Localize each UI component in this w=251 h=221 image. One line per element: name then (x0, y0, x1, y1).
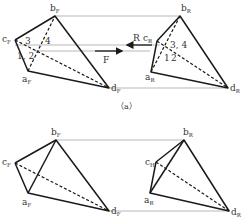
vertex-label-dF: dF (111, 206, 121, 217)
edge-c-b-d-a-c (15, 140, 109, 211)
vertex-label-cR: cR (143, 33, 153, 44)
tetrahedron-projection-diagram: bF cF aF dF 3 4 1, 2 F R bR cR aR dR 3, … (0, 0, 251, 221)
vertex-label-dR: dR (230, 83, 241, 94)
vertex-label-bR: bR (183, 127, 194, 138)
vertex-label-bF: bF (51, 127, 61, 138)
vertex-label-cF: cF (2, 157, 11, 168)
vertex-label-bR: bR (181, 3, 192, 14)
edge-c-b-d-a-c (151, 16, 228, 88)
side-view-b: bR cH aR dR (144, 127, 242, 218)
vertex-label-aR: aR (144, 195, 154, 206)
figure-a: bF cF aF dF 3 4 1, 2 F R bR cR aR dR 3, … (2, 3, 241, 111)
arrow-label-R: R (133, 33, 140, 43)
vertex-label-cH: cH (145, 157, 155, 168)
point-label-3: 3 (25, 36, 31, 46)
front-view-a: bF cF aF dF 3 4 1, 2 (2, 3, 121, 94)
arrow-label-F: F (103, 55, 109, 65)
point-label-34: 3, 4 (170, 40, 187, 50)
side-view-a: bR cR aR dR 3, 4 1 2 (143, 3, 241, 94)
point-label-12: 1, 2 (17, 51, 34, 61)
vertex-label-dR: dR (231, 207, 242, 218)
point-label-1: 1 (164, 53, 170, 63)
vertex-label-aR: aR (145, 72, 155, 83)
front-view-b: bF cF aF dF (2, 127, 121, 217)
vertex-label-bF: bF (50, 3, 60, 14)
vertex-label-aF: aF (22, 197, 31, 208)
figure-caption-a: （a） (116, 102, 137, 111)
vertex-label-aF: aF (22, 74, 31, 85)
hidden-edge-c-d (156, 162, 229, 211)
figure-b: bF cF aF dF bR cH aR dR (2, 127, 242, 218)
point-label-2: 2 (171, 53, 177, 63)
vertex-label-dF: dF (111, 83, 121, 94)
vertex-label-cF: cF (2, 34, 11, 45)
point-label-4: 4 (45, 36, 51, 46)
